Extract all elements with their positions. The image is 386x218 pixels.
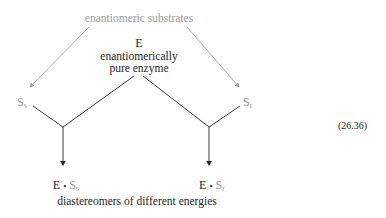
arrow-to-ss	[30, 27, 89, 87]
substrate-left-base: S	[17, 95, 24, 109]
enzyme-line1: enantiomerically	[100, 51, 177, 63]
complex-left-enzyme: E	[53, 178, 60, 192]
substrate-right-base: S	[243, 95, 250, 109]
substrate-line-left	[33, 106, 63, 127]
complex-right-enzyme: E	[199, 178, 206, 192]
substrate-right-sub: r	[250, 101, 253, 110]
complex-right: E • Sr	[199, 179, 225, 193]
substrate-line-right	[209, 106, 240, 127]
complex-left-dot: •	[63, 181, 66, 191]
complex-left-sub: s	[76, 184, 79, 193]
arrow-to-sr	[187, 27, 239, 87]
complex-left: E • Ss	[53, 179, 79, 193]
complex-right-dot: •	[209, 181, 212, 191]
substrate-right: Sr	[243, 96, 252, 110]
top-label: enantiomeric substrates	[85, 13, 193, 25]
substrate-left-sub: s	[24, 101, 27, 110]
enzyme-line2: pure enzyme	[109, 63, 168, 75]
bottom-label: diastereomers of different energies	[57, 196, 217, 208]
enzyme-line-right	[143, 76, 209, 127]
equation-number: (26.36)	[338, 121, 367, 131]
complex-right-sub: r	[222, 184, 225, 193]
enzyme-line-left	[63, 76, 134, 127]
enzyme-symbol: E	[135, 37, 142, 49]
substrate-left: Ss	[17, 96, 27, 110]
